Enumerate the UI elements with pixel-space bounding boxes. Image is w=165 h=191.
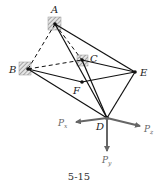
label-b: B [8,64,16,75]
member-bf [28,69,82,82]
label-e: E [139,67,148,78]
space-truss-diagram: A B C E F D Px Pz Py 5-15 [0,0,165,191]
label-pz: Pz [143,124,154,135]
joint-e [133,70,137,74]
member-bd [28,69,107,118]
label-d: D [95,121,104,132]
solid-members [28,24,135,118]
member-ae [55,24,135,72]
label-a: A [50,4,58,15]
dashed-members [28,24,82,69]
member-cd [82,60,107,118]
label-py: Py [101,155,112,167]
member-ab [28,24,55,69]
label-c: C [90,53,98,64]
joint-b [26,67,30,71]
member-ed [107,72,135,118]
truss-figure: A B C E F D Px Pz Py 5-15 [0,0,165,191]
label-px: Px [57,118,68,129]
figure-caption: 5-15 [68,171,90,182]
joint-f [80,80,84,84]
joint-c [80,58,84,62]
member-afd [55,24,107,118]
member-bc [28,60,82,69]
joint-a [53,22,57,26]
label-f: F [72,85,81,96]
force-arrows [76,118,140,151]
force-pz-arrow [107,118,140,126]
